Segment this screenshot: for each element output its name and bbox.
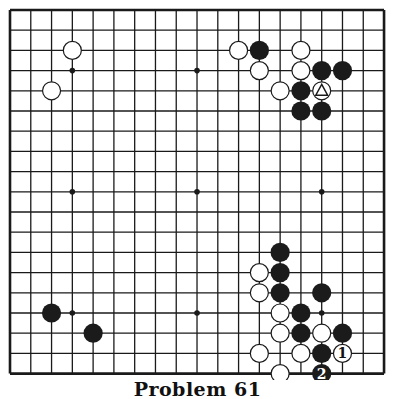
black-stone [333, 61, 352, 80]
go-board: 12 [0, 0, 395, 380]
white-stone [63, 41, 81, 59]
black-stone [312, 101, 331, 120]
white-stone [43, 82, 61, 100]
black-stone [250, 41, 269, 60]
black-stone [291, 324, 310, 343]
black-stone [271, 263, 290, 282]
white-stone [313, 82, 331, 100]
white-stone [250, 264, 268, 282]
black-stone [312, 283, 331, 302]
problem-caption: Problem 61 [0, 378, 395, 399]
white-stone: 1 [333, 344, 351, 362]
white-stone [271, 82, 289, 100]
white-stone [313, 324, 331, 342]
black-stone [42, 303, 61, 322]
white-stone [292, 344, 310, 362]
star-point [70, 310, 76, 316]
black-stone [291, 101, 310, 120]
black-stone [291, 303, 310, 322]
star-point [194, 310, 200, 316]
white-stone [250, 344, 268, 362]
move-number: 1 [338, 345, 348, 361]
star-point [319, 310, 325, 316]
white-stone [292, 62, 310, 80]
star-point [319, 189, 325, 195]
black-stone [312, 61, 331, 80]
black-stone [84, 324, 103, 343]
star-point [70, 68, 76, 74]
white-stone [250, 62, 268, 80]
white-stone [230, 41, 248, 59]
white-stone [250, 284, 268, 302]
white-stone [292, 41, 310, 59]
star-point [70, 189, 76, 195]
black-stone [312, 344, 331, 363]
black-stone [333, 324, 352, 343]
star-point [194, 68, 200, 74]
black-stone [291, 81, 310, 100]
star-point [194, 189, 200, 195]
white-stone [271, 324, 289, 342]
black-stone [271, 283, 290, 302]
white-stone [271, 304, 289, 322]
black-stone [271, 243, 290, 262]
